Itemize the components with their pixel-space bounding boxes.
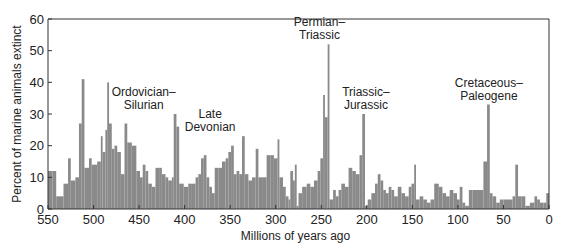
bar: [283, 187, 286, 209]
bar: [148, 184, 152, 209]
bar: [278, 139, 280, 209]
bar: [401, 193, 405, 209]
bar: [192, 184, 196, 209]
bar: [518, 196, 522, 209]
chart-canvas: 0102030405060 55050045040035030025020015…: [0, 0, 563, 250]
bar: [248, 181, 252, 210]
bar: [515, 165, 518, 209]
bar: [82, 79, 85, 209]
bar: [176, 127, 179, 209]
bar: [239, 174, 242, 209]
bar: [405, 196, 409, 209]
bar: [290, 171, 293, 209]
bar: [513, 196, 516, 209]
bar: [231, 146, 234, 209]
bar: [368, 200, 372, 210]
bar: [427, 203, 431, 209]
x-tick-label: 400: [174, 212, 196, 227]
x-tick-label: 200: [356, 212, 378, 227]
annotation-line2: Paleogene: [460, 89, 518, 103]
bar: [314, 181, 318, 210]
bar: [179, 184, 184, 209]
bar: [472, 190, 477, 209]
bar: [112, 149, 115, 209]
bar: [293, 181, 295, 210]
annotation-line1: Triassic–: [342, 85, 390, 99]
bar: [237, 171, 240, 209]
bar: [222, 162, 226, 210]
bar: [320, 158, 323, 209]
bar: [345, 187, 349, 209]
bar: [307, 184, 311, 209]
bar: [234, 174, 237, 209]
bar: [117, 152, 121, 209]
bar: [63, 184, 68, 209]
bar: [500, 200, 504, 210]
bar: [279, 177, 283, 209]
bar: [391, 190, 394, 209]
y-tick-label: 10: [30, 170, 44, 185]
bar: [201, 158, 204, 209]
bar: [478, 190, 483, 209]
bar: [143, 165, 146, 209]
bar: [166, 177, 169, 209]
bar: [218, 168, 222, 209]
bar: [462, 203, 465, 209]
bar: [207, 177, 210, 209]
bar: [252, 177, 256, 209]
y-tick-label: 50: [30, 43, 44, 58]
bar: [140, 177, 143, 209]
bar: [262, 177, 267, 209]
bar: [333, 190, 336, 209]
bar: [323, 95, 325, 209]
bar: [212, 193, 215, 209]
bar: [389, 187, 392, 209]
bar: [172, 177, 174, 209]
bar: [97, 162, 101, 210]
bar: [487, 105, 490, 210]
bar: [460, 187, 463, 209]
bar: [439, 187, 443, 209]
y-tick-label: 20: [30, 138, 44, 153]
bar: [209, 187, 212, 209]
annotation-line2: Devonian: [185, 120, 236, 134]
bar: [483, 162, 487, 210]
bar: [469, 190, 473, 209]
bar: [339, 190, 342, 209]
bar: [109, 124, 112, 210]
bar: [274, 158, 278, 209]
bar: [92, 165, 97, 209]
bar: [121, 174, 125, 209]
x-axis-title: Millions of years ago: [241, 229, 351, 243]
bar: [544, 203, 547, 209]
bar: [534, 196, 537, 209]
x-tick-label: 550: [37, 212, 59, 227]
bar: [325, 117, 328, 209]
x-tick-label: 50: [496, 212, 510, 227]
bar: [423, 200, 427, 210]
bar: [71, 181, 76, 210]
bar: [540, 203, 544, 209]
bar: [386, 193, 389, 209]
bar: [414, 165, 416, 209]
x-tick-label: 0: [545, 212, 552, 227]
bar: [79, 124, 82, 210]
bar: [383, 190, 386, 209]
bar: [375, 184, 378, 209]
bar: [198, 174, 201, 209]
x-tick-label: 450: [128, 212, 150, 227]
bar: [352, 171, 356, 209]
y-tick-label: 40: [30, 75, 44, 90]
bar: [362, 114, 365, 209]
bar: [409, 187, 412, 209]
annotation-line2: Jurassic: [344, 98, 388, 112]
mass-extinction-chart: 0102030405060 55050045040035030025020015…: [0, 0, 563, 250]
bar: [356, 174, 360, 209]
bar: [371, 193, 375, 209]
bar: [530, 203, 535, 209]
bar: [48, 171, 53, 209]
bar: [242, 136, 245, 209]
x-tick-label: 300: [265, 212, 287, 227]
bar: [349, 168, 353, 209]
event-annotations: Ordovician–SilurianLateDevonianPermian–T…: [112, 15, 524, 134]
